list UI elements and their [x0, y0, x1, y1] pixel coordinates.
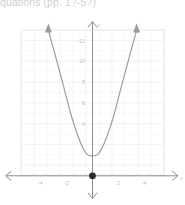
origin-point-marker[interactable]	[89, 172, 96, 179]
coordinate-plane-svg: 12 10 8 6 4 -4 -2 2 4 y x	[0, 8, 185, 205]
y-tick-6: 6	[82, 100, 85, 106]
x-tick-4: 4	[143, 180, 146, 186]
curve-left-arrow-icon	[45, 24, 52, 33]
x-tick-minus4: -4	[38, 180, 43, 186]
x-tick-minus2: -2	[64, 180, 69, 186]
y-axis-label: y	[96, 22, 101, 28]
page-header-text: quations (pp. 1?-5?)	[0, 0, 185, 8]
y-tick-8: 8	[82, 79, 85, 85]
y-tick-4: 4	[82, 121, 85, 127]
x-tick-2: 2	[117, 180, 120, 186]
y-tick-10: 10	[79, 58, 85, 64]
x-axis-label: x	[179, 175, 183, 181]
curve-right-arrow-icon	[133, 24, 140, 33]
graph-figure: 12 10 8 6 4 -4 -2 2 4 y x	[0, 8, 185, 205]
y-tick-12: 12	[79, 38, 85, 44]
